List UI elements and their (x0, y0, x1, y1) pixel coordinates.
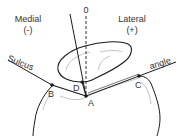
lateral-sign-label: (+) (126, 25, 137, 35)
point-c-marker (137, 74, 141, 78)
medial-label: Medial (15, 14, 42, 24)
point-b-marker (50, 83, 54, 87)
line-a-to-c-double (88, 74, 139, 93)
medial-sign-label: (-) (24, 25, 33, 35)
patella-inner-contour (66, 51, 122, 71)
patella-facet (98, 56, 110, 70)
zero-label: 0 (83, 5, 88, 15)
lateral-label: Lateral (118, 14, 146, 24)
line-b-to-a (52, 85, 86, 96)
point-a-label: A (88, 98, 94, 108)
point-b-label: B (48, 89, 54, 99)
point-c-label: C (135, 80, 142, 90)
lateral-condyle-inner (141, 82, 151, 104)
patella-outline (58, 42, 132, 82)
lateral-condyle-outline (139, 76, 160, 136)
point-d-label: D (73, 83, 80, 93)
point-d-marker (80, 80, 83, 83)
